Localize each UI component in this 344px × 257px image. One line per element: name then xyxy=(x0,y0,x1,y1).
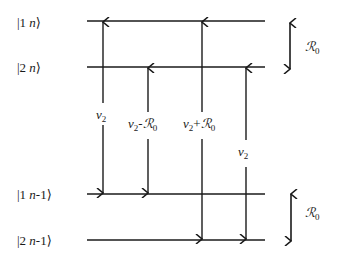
splitting-r0-upper: ℛ0 xyxy=(290,23,320,69)
transition-label-nu2-left: ν2 xyxy=(96,107,106,124)
level-label-1-n-minus-1: |1 n-1⟩ xyxy=(17,187,52,202)
transition-nu2-minus-r0: ν2-ℛ0 xyxy=(128,68,158,193)
level-label-2-n: |2 n⟩ xyxy=(17,60,41,75)
transition-nu2-left: ν2 xyxy=(96,22,106,193)
transition-nu2-right: ν2 xyxy=(238,68,248,239)
transition-label-nu2-minus-r0: ν2-ℛ0 xyxy=(128,116,158,133)
level-label-1-n: |1 n⟩ xyxy=(17,15,41,30)
splitting-r0-lower: ℛ0 xyxy=(291,194,320,241)
energy-level-diagram: |1 n⟩ |2 n⟩ |1 n-1⟩ |2 n-1⟩ ν2 ν2-ℛ0 ν2+… xyxy=(0,0,344,257)
transition-label-nu2-right: ν2 xyxy=(238,144,248,161)
transition-label-nu2-plus-r0: ν2+ℛ0 xyxy=(183,116,216,133)
splitting-label-upper: ℛ0 xyxy=(305,39,320,56)
level-label-2-n-minus-1: |2 n-1⟩ xyxy=(17,233,52,248)
transition-nu2-plus-r0: ν2+ℛ0 xyxy=(183,22,216,239)
splitting-label-lower: ℛ0 xyxy=(305,205,320,222)
